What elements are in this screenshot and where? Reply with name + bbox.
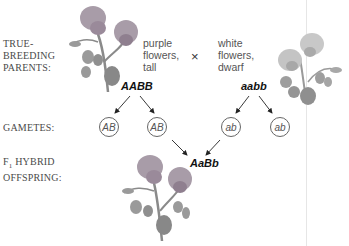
arrow-p1-to-gamete1	[115, 96, 130, 113]
arrow-p2-to-gamete1	[236, 96, 249, 113]
pea-plant-hybrid-icon	[120, 155, 196, 243]
arrow-gamete-p2-to-offspring	[206, 140, 220, 155]
arrow-p1-to-gamete2	[140, 96, 154, 113]
arrow-gamete-p1-to-offspring	[172, 140, 187, 155]
arrow-p2-to-gamete2	[259, 96, 272, 113]
